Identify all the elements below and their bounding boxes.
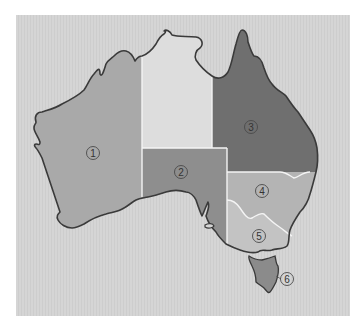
kangaroo-island	[205, 224, 214, 228]
label-5-text: 5	[256, 231, 262, 242]
label-4-text: 4	[259, 186, 265, 197]
australia-map: 1 2 3 4 5 6	[0, 0, 360, 324]
label-3-text: 3	[248, 122, 254, 133]
label-2-text: 2	[178, 167, 184, 178]
label-6-text: 6	[284, 274, 290, 285]
label-1-text: 1	[90, 148, 96, 159]
